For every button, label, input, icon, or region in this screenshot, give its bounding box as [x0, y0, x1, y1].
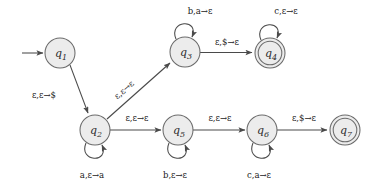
transition-label-q5-q6: ε,ε→ε — [208, 113, 232, 123]
transition-label-q1-q2: ε,ε→$ — [32, 90, 56, 100]
state-q5[interactable]: q5 — [163, 115, 193, 145]
self-loop-label-q6: c,a→ε — [247, 170, 272, 180]
self-loop-label-q3: b,a→ε — [188, 6, 213, 16]
transition-label-q3-q4: ε,$→ε — [215, 37, 240, 47]
state-q4[interactable]: q4 — [255, 38, 285, 68]
transition-label-q2-q5: ε,ε→ε — [125, 113, 149, 123]
state-q6[interactable]: q6 — [247, 115, 277, 145]
transition-label-q2-q3: ε,ε→ε — [112, 78, 136, 101]
state-q2[interactable]: q2 — [80, 115, 110, 145]
self-loop-label-q5: b,ε→ε — [163, 170, 188, 180]
state-q3[interactable]: q3 — [170, 37, 200, 67]
self-loop-label-q4: c,ε→ε — [274, 6, 298, 16]
state-q7[interactable]: q7 — [330, 115, 360, 145]
transition-q1-q2 — [70, 65, 88, 113]
pda-state-diagram: q1 q2 q3 q4 q5 q6 q7 ε,ε→$ — [0, 0, 378, 190]
self-loop-label-q2: a,ε→a — [80, 170, 104, 180]
state-q1[interactable]: q1 — [45, 38, 75, 68]
transition-label-q6-q7: ε,$→ε — [292, 113, 317, 123]
